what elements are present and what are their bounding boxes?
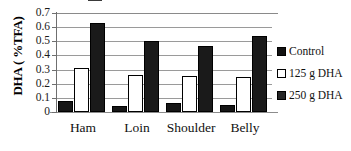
- bar-shoulder-dha125: [182, 76, 197, 112]
- y-axis-tick-label: 0.4: [24, 49, 50, 61]
- bar-shoulder-control: [166, 103, 181, 112]
- bar-loin-dha125: [128, 75, 143, 112]
- y-axis-tick-mark: [52, 13, 57, 14]
- y-axis-tick-mark: [52, 98, 57, 99]
- cropped-title-remnant: [88, 0, 102, 1]
- x-axis-label-belly: Belly: [218, 120, 272, 135]
- y-axis-tick-mark: [52, 55, 57, 56]
- x-axis-line: [50, 112, 278, 113]
- y-axis-tick-label: 0.2: [24, 78, 50, 90]
- legend-swatch-icon-dha250: [277, 91, 286, 100]
- y-axis-tick-label: 0: [24, 106, 50, 118]
- plot-area: [56, 13, 272, 112]
- y-axis-tick-mark: [52, 84, 57, 85]
- y-axis-tick-label: 0.5: [24, 35, 50, 47]
- y-axis-tick-label: 0.1: [24, 92, 50, 104]
- bar-belly-dha250: [252, 36, 267, 112]
- legend-item-dha250: 250 g DHA: [277, 84, 351, 106]
- bar-ham-dha125: [74, 68, 89, 112]
- bar-ham-dha250: [90, 23, 105, 112]
- gridline: [56, 55, 272, 56]
- bar-shoulder-dha250: [198, 46, 213, 112]
- legend-item-control: Control: [277, 40, 351, 62]
- y-axis-tick-mark: [52, 112, 57, 113]
- y-axis-tick-mark: [52, 27, 57, 28]
- bar-belly-dha125: [236, 77, 251, 112]
- legend-label-dha250: 250 g DHA: [289, 89, 343, 101]
- bar-ham-control: [58, 101, 73, 112]
- legend-item-dha125: 125 g DHA: [277, 62, 351, 84]
- bar-belly-control: [220, 105, 235, 112]
- y-axis-tick-label: 0.3: [24, 64, 50, 76]
- x-axis-label-loin: Loin: [110, 120, 164, 135]
- gridline: [56, 27, 272, 28]
- bar-loin-dha250: [144, 41, 159, 112]
- y-axis-tick-mark: [52, 41, 57, 42]
- legend-swatch-icon-dha125: [277, 69, 286, 78]
- legend-label-dha125: 125 g DHA: [289, 67, 343, 79]
- x-axis-label-shoulder: Shoulder: [164, 120, 218, 135]
- chart-legend: Control125 g DHA250 g DHA: [277, 40, 351, 106]
- y-axis-tick-mark: [52, 70, 57, 71]
- bar-loin-control: [112, 106, 127, 112]
- legend-swatch-icon-control: [277, 47, 286, 56]
- x-axis-label-ham: Ham: [56, 120, 110, 135]
- y-axis-tick-label: 0.6: [24, 21, 50, 33]
- legend-label-control: Control: [289, 45, 324, 57]
- y-axis-tick-label: 0.7: [24, 7, 50, 19]
- gridline: [56, 41, 272, 42]
- bar-chart-figure: DHA ( %TFA) 0.70.60.50.40.30.20.10 HamLo…: [0, 0, 351, 151]
- y-axis-tick-labels: 0.70.60.50.40.30.20.10: [22, 0, 50, 151]
- gridline: [56, 13, 278, 14]
